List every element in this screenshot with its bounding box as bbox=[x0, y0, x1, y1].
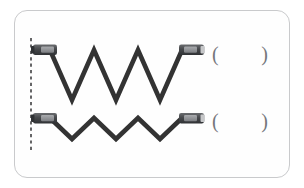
close-paren: ) bbox=[261, 43, 268, 65]
close-paren: ) bbox=[261, 110, 268, 132]
open-paren: ( bbox=[212, 110, 219, 132]
open-paren: ( bbox=[212, 43, 219, 65]
waveform-comparison-card bbox=[14, 10, 290, 178]
answer-blank-row-1[interactable]: ( ) bbox=[212, 43, 268, 65]
screenshot-root: ( ) ( ) bbox=[0, 0, 304, 188]
answer-blank-row-2[interactable]: ( ) bbox=[212, 110, 268, 132]
